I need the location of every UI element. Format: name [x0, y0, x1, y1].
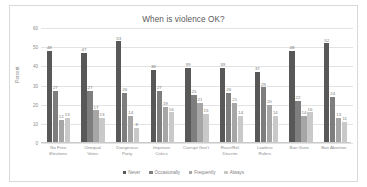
- y-axis-tick-label: 50: [24, 45, 38, 50]
- bar-column[interactable]: 39: [220, 28, 225, 143]
- bar-value-label: 13: [59, 112, 75, 117]
- bar[interactable]: [47, 51, 52, 143]
- bar[interactable]: [81, 53, 86, 143]
- bar-column[interactable]: 22: [295, 28, 300, 143]
- bar-value-label: 14: [267, 110, 283, 115]
- bar-group: 37292014: [249, 28, 284, 143]
- x-axis-category-label: Ban Guns: [282, 145, 316, 167]
- legend-item[interactable]: Always: [224, 170, 243, 175]
- bar[interactable]: [238, 116, 243, 143]
- bar[interactable]: [232, 103, 237, 143]
- x-axis-category-label: No FreeElections: [41, 145, 75, 167]
- bar-group: 5326148: [110, 28, 145, 143]
- bar-column[interactable]: 27: [53, 28, 58, 143]
- bar-column[interactable]: 14: [301, 28, 306, 143]
- x-axis-category-label: Race/Rel.Discrim.: [213, 145, 247, 167]
- bar-column[interactable]: 11: [342, 28, 347, 143]
- bar-column[interactable]: 20: [267, 28, 272, 143]
- bar-value-label: 16: [302, 107, 318, 112]
- bar[interactable]: [307, 112, 312, 143]
- bar-column[interactable]: 17: [93, 28, 98, 143]
- bar[interactable]: [342, 122, 347, 143]
- bar-column[interactable]: 21: [197, 28, 202, 143]
- bar[interactable]: [191, 95, 196, 143]
- bar[interactable]: [151, 70, 156, 143]
- bar-group: 38271916: [145, 28, 180, 143]
- x-axis-labels: No FreeElectionsUnequalVotesDangerousPar…: [41, 145, 351, 167]
- bar[interactable]: [301, 116, 306, 143]
- x-axis-category-label: UnequalVotes: [75, 145, 109, 167]
- bar[interactable]: [169, 112, 174, 143]
- bar-column[interactable]: 26: [122, 28, 127, 143]
- bar-column[interactable]: 13: [99, 28, 104, 143]
- bar-group: 48221416: [284, 28, 319, 143]
- bar-column[interactable]: 14: [238, 28, 243, 143]
- bar-column[interactable]: 13: [336, 28, 341, 143]
- x-axis-category-label: ImprisonCritics: [144, 145, 178, 167]
- bar[interactable]: [128, 116, 133, 143]
- bar-column[interactable]: 16: [307, 28, 312, 143]
- legend-swatch-icon: [123, 171, 126, 174]
- legend-item[interactable]: Frequently: [189, 170, 215, 175]
- x-axis-category-label: Ban Abortion: [317, 145, 351, 167]
- bar[interactable]: [122, 93, 127, 143]
- bar[interactable]: [65, 118, 70, 143]
- bar[interactable]: [336, 118, 341, 143]
- bar-column[interactable]: 14: [273, 28, 278, 143]
- bar[interactable]: [273, 116, 278, 143]
- bar[interactable]: [59, 120, 64, 143]
- legend-item[interactable]: Never: [123, 170, 140, 175]
- bar-column[interactable]: 15: [203, 28, 208, 143]
- bar-column[interactable]: 16: [169, 28, 174, 143]
- legend-label: Never: [128, 170, 140, 175]
- bar[interactable]: [134, 128, 139, 143]
- bar-value-label: 8: [129, 122, 145, 127]
- gridline: [41, 143, 353, 144]
- bar-column[interactable]: 26: [226, 28, 231, 143]
- bar[interactable]: [330, 97, 335, 143]
- legend-label: Frequently: [194, 170, 215, 175]
- bar-column[interactable]: 8: [134, 28, 139, 143]
- bar[interactable]: [99, 118, 104, 143]
- plot-wrapper: Percent 0102030405060 482712134727171353…: [10, 28, 359, 143]
- bar[interactable]: [157, 91, 162, 143]
- y-axis-tick-label: 30: [24, 83, 38, 88]
- bar-group: 48271213: [41, 28, 76, 143]
- chart-legend: NeverOccasionallyFrequentlyAlways: [10, 170, 357, 175]
- bar-column[interactable]: 39: [185, 28, 190, 143]
- bar[interactable]: [220, 68, 225, 143]
- bar-column[interactable]: 24: [330, 28, 335, 143]
- bar[interactable]: [163, 107, 168, 143]
- bar[interactable]: [203, 114, 208, 143]
- bar-column[interactable]: 29: [261, 28, 266, 143]
- legend-swatch-icon: [189, 171, 192, 174]
- legend-item[interactable]: Occasionally: [149, 170, 180, 175]
- bar-column[interactable]: 27: [157, 28, 162, 143]
- bar-group: 39262114: [214, 28, 249, 143]
- legend-label: Occasionally: [154, 170, 180, 175]
- y-axis-title: Percent: [15, 55, 20, 95]
- y-axis-tick-label: 10: [24, 121, 38, 126]
- y-axis-tick-label: 40: [24, 64, 38, 69]
- bar-column[interactable]: 52: [324, 28, 329, 143]
- plot-area: 4827121347271713532614838271916392521153…: [41, 28, 353, 143]
- bar-column[interactable]: 25: [191, 28, 196, 143]
- bar-group: 52241311: [318, 28, 353, 143]
- bar-column[interactable]: 53: [116, 28, 121, 143]
- bar-column[interactable]: 27: [87, 28, 92, 143]
- bar[interactable]: [185, 68, 190, 143]
- legend-swatch-icon: [224, 171, 227, 174]
- bar-value-label: 13: [94, 112, 110, 117]
- y-axis-tick-label: 20: [24, 102, 38, 107]
- bar-column[interactable]: 19: [163, 28, 168, 143]
- bar[interactable]: [295, 101, 300, 143]
- bar[interactable]: [261, 87, 266, 143]
- x-axis-category-label: DangerousParty: [110, 145, 144, 167]
- bar-column[interactable]: 21: [232, 28, 237, 143]
- bar-column[interactable]: 48: [289, 28, 294, 143]
- x-axis-line: [41, 142, 351, 143]
- bar[interactable]: [87, 91, 92, 143]
- x-axis-category-label: Corrupt Gov't: [179, 145, 213, 167]
- bar-column[interactable]: 12: [59, 28, 64, 143]
- bar-column[interactable]: 13: [65, 28, 70, 143]
